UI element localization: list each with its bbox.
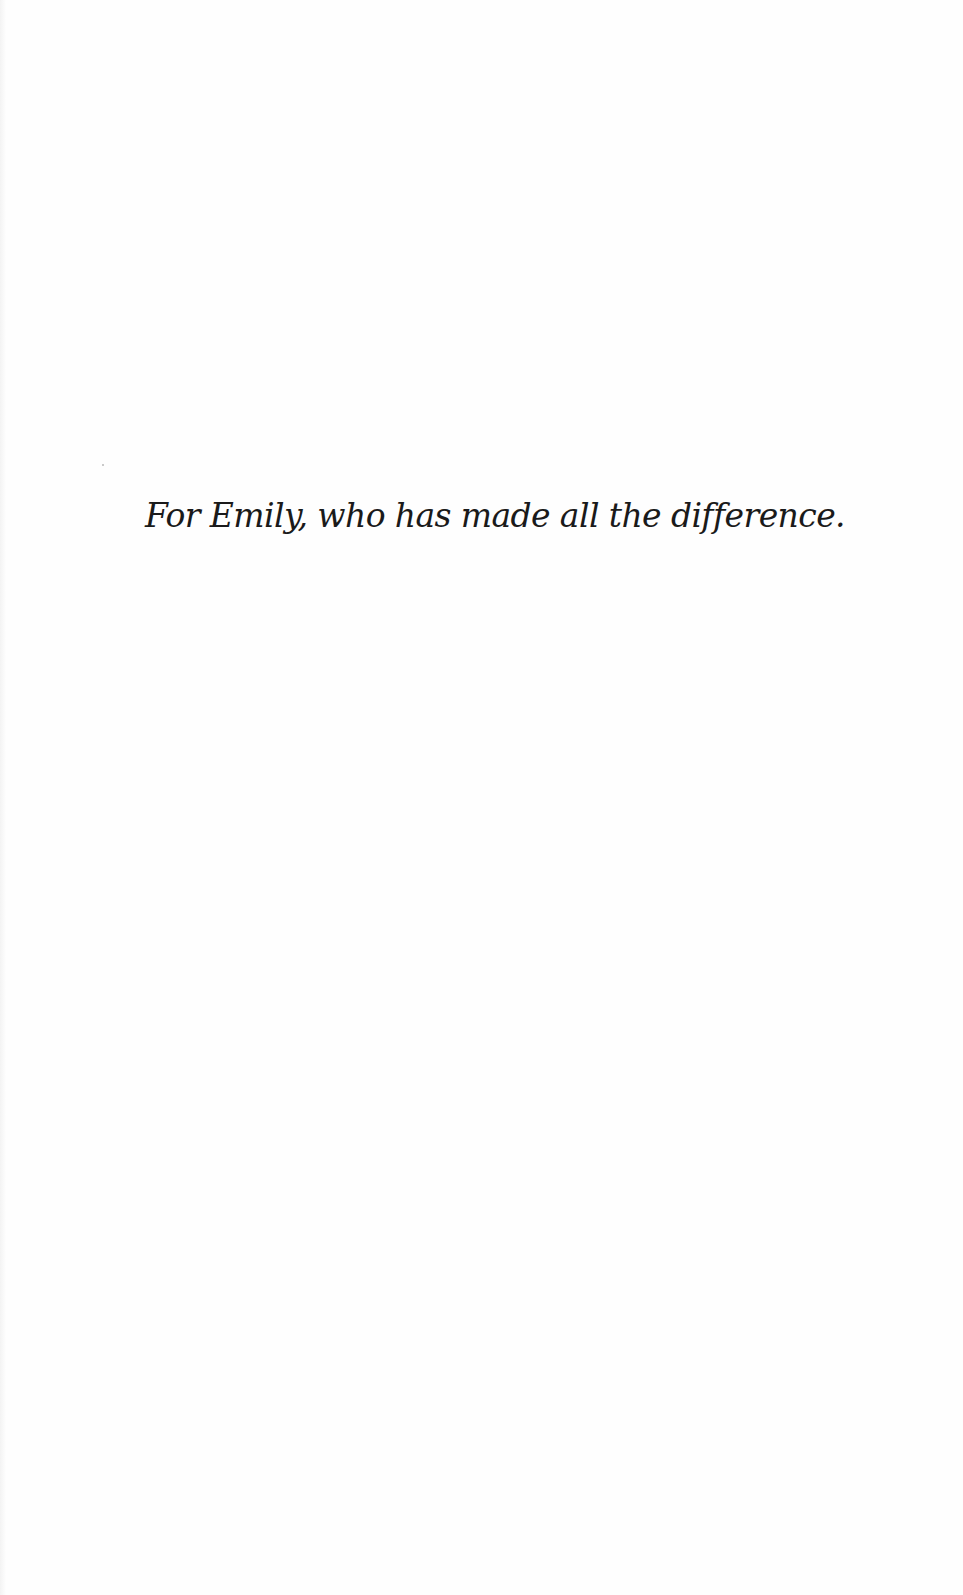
dedication-text: For Emily, who has made all the differen… [0,494,963,538]
page-edge [0,0,6,1595]
scan-speck [102,464,104,466]
book-page: For Emily, who has made all the differen… [0,0,963,1595]
